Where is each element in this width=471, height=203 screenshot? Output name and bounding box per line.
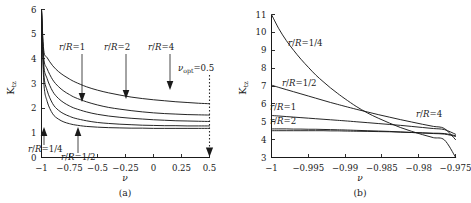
x-tick-label: −0.99	[332, 163, 358, 173]
y-tick-label: 4	[261, 135, 267, 145]
panel-a-caption: (a)	[119, 187, 132, 198]
panel-a-label-rR12: r/R=1/2	[61, 152, 96, 162]
panel-a-arrow-rR4	[167, 81, 174, 90]
panel-a-ylabel: Ktz	[5, 81, 18, 95]
panel-a-label-rR14: r/R=1/4	[28, 144, 63, 154]
curve-rR1	[42, 10, 210, 122]
panel-a-xlabel: ν	[122, 173, 128, 183]
panel-b-label-rR4: r/R=4	[416, 109, 443, 119]
x-tick-label: −0.985	[366, 163, 398, 173]
panel-b-annotations: r/R=1/4 r/R=1/2 r/R=1 r/R=2 r/R=4	[270, 38, 443, 126]
y-tick-label: 11	[256, 10, 267, 20]
x-tick-label: −1	[265, 163, 278, 173]
panel-a-label-rR2: r/R=2	[104, 42, 130, 52]
x-tick-label: −0.25	[112, 163, 138, 173]
panel-b-xlabel: ν	[357, 173, 363, 183]
panel-a-y-ticklabels: 0123456	[31, 5, 37, 163]
panel-a-label-rR1: r/R=1	[59, 42, 85, 52]
y-tick-label: 5	[261, 117, 266, 127]
y-tick-label: 4	[31, 54, 37, 64]
panel-a-axes	[42, 10, 210, 158]
x-tick-label: −0.75	[56, 163, 82, 173]
panel-b-x-ticklabels: −1−0.995−0.99−0.985−0.98−0.975	[265, 163, 471, 173]
panel-a-arrow-rR12	[75, 127, 82, 136]
figure-svg: 0123456 −1−0.75−0.5−0.2500.250.5 νopt=0.…	[0, 0, 471, 203]
panel-b: 34567891011 −1−0.995−0.99−0.985−0.98−0.9…	[237, 10, 471, 199]
y-tick-label: 2	[31, 103, 36, 113]
x-tick-label: 0	[151, 163, 156, 173]
x-tick-label: −0.975	[440, 163, 471, 173]
x-tick-label: 0.25	[172, 163, 191, 173]
x-tick-label: −0.995	[292, 163, 324, 173]
panel-a-label-rR4: r/R=4	[148, 42, 175, 52]
nu-opt-arrowhead	[206, 148, 213, 158]
figure-container: 0123456 −1−0.75−0.5−0.2500.250.5 νopt=0.…	[0, 0, 471, 203]
panel-a: 0123456 −1−0.75−0.5−0.2500.250.5 νopt=0.…	[5, 5, 216, 199]
y-tick-label: 7	[261, 81, 266, 91]
x-tick-label: −0.98	[406, 163, 432, 173]
x-tick-label: −1	[35, 163, 48, 173]
y-tick-label: 6	[261, 99, 266, 109]
y-tick-label: 5	[31, 29, 36, 39]
x-tick-label: −0.5	[87, 163, 108, 173]
y-tick-label: 3	[261, 153, 266, 163]
panel-a-arrow-rR2	[123, 90, 130, 99]
x-tick-label: 0.5	[203, 163, 217, 173]
y-tick-label: 10	[256, 27, 267, 37]
panel-b-caption: (b)	[353, 187, 366, 198]
curve-rR4	[42, 10, 210, 104]
y-tick-label: 0	[31, 153, 36, 163]
panel-b-label-rR12: r/R=1/2	[282, 78, 317, 88]
y-tick-label: 6	[31, 5, 36, 15]
panel-b-label-rR2: r/R=2	[270, 116, 296, 126]
curve-rR2	[42, 10, 210, 116]
y-tick-label: 3	[31, 79, 36, 89]
nu-opt-marker	[206, 75, 213, 157]
y-tick-label: 9	[261, 45, 266, 55]
panel-b-ylabel: Ktz	[237, 81, 250, 95]
curve-rR4	[272, 131, 456, 136]
nu-opt-value: =0.5	[193, 63, 214, 73]
panel-a-annotations: r/R=1 r/R=2 r/R=4 r/R=1/4 r/R=1/2	[28, 42, 175, 162]
y-tick-label: 8	[261, 63, 266, 73]
panel-a-x-ticklabels: −1−0.75−0.5−0.2500.250.5	[35, 163, 216, 173]
panel-b-label-rR1: r/R=1	[270, 102, 296, 112]
nu-opt-label: νopt=0.5	[178, 63, 214, 75]
panel-b-y-ticklabels: 34567891011	[256, 10, 267, 163]
panel-b-label-rR14: r/R=1/4	[288, 38, 323, 48]
y-tick-label: 1	[31, 128, 36, 138]
nu-opt-subscript: opt	[183, 67, 194, 75]
